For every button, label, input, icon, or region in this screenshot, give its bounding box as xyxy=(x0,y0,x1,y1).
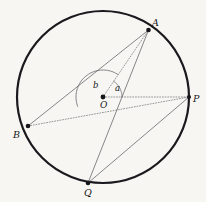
center-label-o: O xyxy=(100,101,107,110)
point-label-q: Q xyxy=(84,188,92,198)
vertex-dot-layer xyxy=(26,28,191,186)
segment-layer xyxy=(28,30,189,183)
point-label-b: B xyxy=(13,130,20,140)
vertex-dot-p xyxy=(187,95,191,99)
segment-aq xyxy=(88,30,149,183)
segment-bp xyxy=(28,97,189,126)
vertex-dot-b xyxy=(26,124,31,129)
vertex-dot-q xyxy=(86,181,91,186)
point-label-p: P xyxy=(193,94,199,104)
segment-ab xyxy=(28,30,149,126)
center-point-dot xyxy=(101,95,106,100)
angle-label-b: b xyxy=(93,81,98,90)
vertex-dot-a xyxy=(146,28,151,33)
angle-label-a: a xyxy=(115,84,120,93)
point-label-a: A xyxy=(152,18,159,28)
circle-geometry-figure: A B P Q O a b xyxy=(0,0,206,202)
